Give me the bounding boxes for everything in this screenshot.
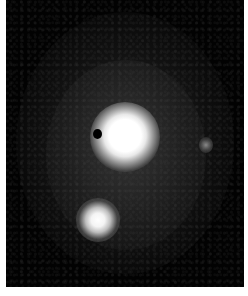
galaxy-image <box>6 0 244 287</box>
dust-spot <box>93 129 102 139</box>
bright-knot <box>76 198 120 242</box>
faint-star <box>199 137 213 153</box>
